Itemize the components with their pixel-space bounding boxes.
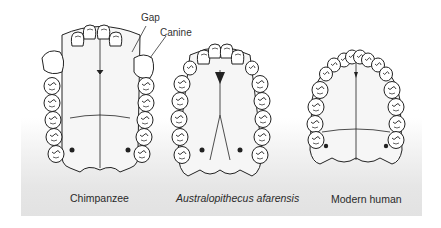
- chimpanzee-palate: [42, 25, 154, 172]
- australopithecus-palate: [171, 44, 271, 176]
- chimpanzee-label: Chimpanzee: [70, 192, 129, 204]
- australopithecus-label: Australopithecus afarensis: [176, 192, 299, 204]
- gap-callout-label: Gap: [141, 12, 160, 23]
- canine-leader-line: [150, 36, 166, 58]
- modern-human-palate: [307, 50, 405, 164]
- modern-human-label: Modern human: [331, 193, 402, 205]
- canine-callout-label: Canine: [160, 27, 192, 38]
